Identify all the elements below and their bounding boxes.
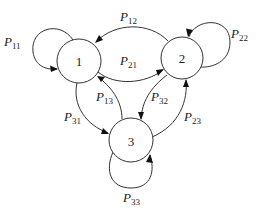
markov-state-diagram: 1 2 3 P11 P12 P21 P22 P13 P31 P32 P23 P3… <box>0 0 258 212</box>
label-p23: P23 <box>183 109 201 126</box>
arrowhead-p21-icon <box>156 69 164 76</box>
label-p13: P13 <box>95 89 113 106</box>
label-p33: P33 <box>122 190 140 207</box>
arrowhead-p31-icon <box>101 128 109 134</box>
label-p22: P22 <box>230 26 248 43</box>
label-p12: P12 <box>119 9 137 26</box>
label-p11: P11 <box>3 34 21 51</box>
edge-p21 <box>98 70 163 82</box>
state-label-1: 1 <box>76 54 83 69</box>
state-node-2: 2 <box>161 37 203 79</box>
state-label-2: 2 <box>179 51 186 66</box>
label-p21: P21 <box>119 53 137 70</box>
label-p32: P32 <box>150 89 168 106</box>
state-node-1: 1 <box>57 39 101 83</box>
arrowhead-p11-icon <box>50 66 58 73</box>
label-p31: P31 <box>63 109 81 126</box>
edge-p12 <box>96 27 168 42</box>
arrowhead-p23-icon <box>183 79 189 87</box>
state-label-3: 3 <box>128 134 135 149</box>
state-node-3: 3 <box>109 118 153 162</box>
arrowhead-p32-icon <box>138 112 144 120</box>
